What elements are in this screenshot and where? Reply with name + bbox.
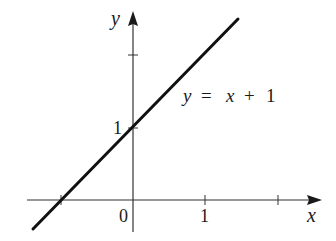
y-axis-label: y [109, 7, 120, 30]
equation-label: y = x + 1 [181, 85, 276, 106]
x-tick-label-1: 1 [200, 206, 209, 226]
equation-one: 1 [266, 85, 276, 106]
y-axis-arrow-icon [128, 11, 138, 26]
y-tick-label-1: 1 [113, 118, 122, 138]
equation-eq: = [201, 85, 212, 106]
equation-plus: + [244, 85, 255, 106]
data-line [33, 19, 238, 229]
line-graph: y x 0 1 1 y = x + 1 [0, 0, 336, 241]
x-axis-label: x [306, 204, 316, 226]
origin-label: 0 [119, 206, 128, 226]
equation-x: x [225, 85, 235, 106]
equation-y: y [181, 85, 192, 106]
